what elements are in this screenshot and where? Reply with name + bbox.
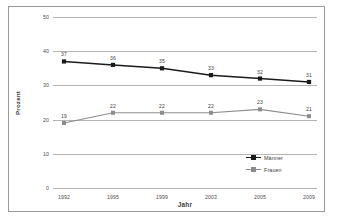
legend-item-maenner[interactable]: Männer xyxy=(246,152,283,163)
data-label: 36 xyxy=(110,55,116,61)
data-point-marker xyxy=(258,107,262,111)
y-tick-label-30: 30 xyxy=(43,82,49,88)
x-axis-title: Jahr xyxy=(178,201,192,208)
x-tick-label-1992: 1992 xyxy=(58,194,70,200)
data-point-marker xyxy=(111,63,115,67)
data-label: 22 xyxy=(159,103,165,109)
data-point-marker xyxy=(111,111,115,115)
data-label: 37 xyxy=(61,51,67,57)
series-maenner xyxy=(62,59,311,84)
y-tick-label-0: 0 xyxy=(46,185,49,191)
legend-marker-square-icon xyxy=(246,166,261,173)
x-tick-label-2003: 2003 xyxy=(205,194,217,200)
y-tick-label-50: 50 xyxy=(43,14,49,20)
data-label: 31 xyxy=(306,72,312,78)
legend-label-frauen: Frauen xyxy=(264,167,282,173)
data-point-marker xyxy=(258,76,262,80)
y-tick-label-20: 20 xyxy=(43,117,49,123)
data-label: 19 xyxy=(61,113,67,119)
data-point-marker xyxy=(160,66,164,70)
data-point-marker xyxy=(62,121,66,125)
x-tick-label-2009: 2009 xyxy=(303,194,315,200)
y-tick-label-10: 10 xyxy=(43,151,49,157)
y-tick-label-40: 40 xyxy=(43,48,49,54)
data-label: 33 xyxy=(208,65,214,71)
data-point-marker xyxy=(160,111,164,115)
data-point-marker xyxy=(307,114,311,118)
x-tick-label-2005: 2005 xyxy=(254,194,266,200)
data-label: 21 xyxy=(306,106,312,112)
data-label: 23 xyxy=(257,99,263,105)
x-tick-label-1995: 1995 xyxy=(107,194,119,200)
data-point-marker xyxy=(307,80,311,84)
data-label: 22 xyxy=(208,103,214,109)
chart-legend: Männer Frauen xyxy=(246,152,308,178)
y-axis-title: Prozent xyxy=(14,91,21,115)
legend-item-frauen[interactable]: Frauen xyxy=(246,164,282,175)
legend-label-maenner: Männer xyxy=(264,155,283,161)
data-label: 22 xyxy=(110,103,116,109)
data-label: 35 xyxy=(159,58,165,64)
data-point-marker xyxy=(209,111,213,115)
legend-marker-diamond-icon xyxy=(246,154,261,161)
data-point-marker xyxy=(209,73,213,77)
data-label: 32 xyxy=(257,69,263,75)
x-tick-label-1999: 1999 xyxy=(156,194,168,200)
series-line xyxy=(64,109,309,123)
data-point-marker xyxy=(62,59,66,63)
series-line xyxy=(64,61,309,82)
chart-figure: Prozent Jahr 50 40 30 20 10 0 1992 1995 … xyxy=(0,0,339,223)
series-frauen xyxy=(62,107,311,125)
